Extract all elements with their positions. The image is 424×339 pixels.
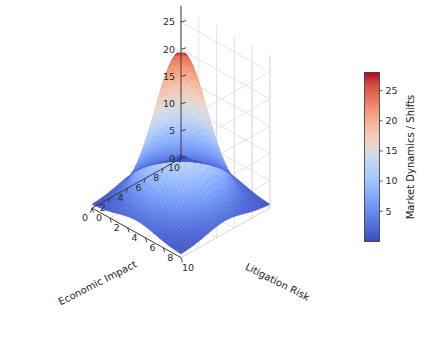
x-tick-label-4: 4: [118, 192, 124, 203]
colorbar-tick-label-5: 5: [386, 206, 392, 217]
z-tick-label-20: 20: [163, 44, 175, 55]
y-tick-label-0: 0: [96, 212, 102, 223]
surface-plot-svg: 051015202510864200246810 Economic Impact…: [0, 0, 424, 339]
y-tick-label-4: 4: [132, 232, 138, 243]
y-tick-label-6: 6: [149, 242, 155, 253]
x-tick-label-8: 8: [153, 172, 159, 183]
colorbar-gradient[interactable]: [365, 73, 380, 242]
y-tick-label-2: 2: [114, 222, 120, 233]
y-tick-label-10: 10: [182, 262, 194, 273]
x-tick-label-0: 0: [82, 212, 88, 223]
colorbar[interactable]: 510152025 Market Dynamics / Shifts: [365, 73, 417, 242]
z-tick-label-15: 15: [163, 71, 175, 82]
z-tick-label-25: 25: [163, 16, 175, 27]
colorbar-tick-label-10: 10: [386, 175, 398, 186]
y-tick-label-8: 8: [167, 252, 173, 263]
colorbar-tick-label-15: 15: [386, 145, 398, 156]
z-tick-label-5: 5: [169, 125, 175, 136]
x-tick-label-10: 10: [168, 162, 180, 173]
z-tick-label-10: 10: [163, 98, 175, 109]
x-tick-label-6: 6: [135, 182, 141, 193]
colorbar-ticks: 510152025: [380, 85, 398, 217]
colorbar-label: Market Dynamics / Shifts: [405, 95, 416, 220]
figure-canvas: 051015202510864200246810 Economic Impact…: [0, 0, 424, 339]
colorbar-tick-label-20: 20: [386, 115, 398, 126]
x-axis-title: Economic Impact: [57, 258, 139, 307]
colorbar-tick-label-25: 25: [386, 85, 398, 96]
y-axis-title: Litigation Risk: [244, 261, 312, 303]
